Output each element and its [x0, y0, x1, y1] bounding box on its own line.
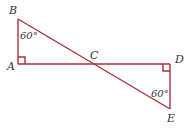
label-c: C	[90, 49, 99, 62]
right-angle-marker-d	[163, 64, 170, 71]
label-b: B	[8, 4, 17, 17]
geometry-figure: B A C D E 60° 60°	[0, 0, 190, 130]
right-angle-marker-a	[18, 57, 25, 64]
angle-b-label: 60°	[20, 30, 38, 41]
label-a: A	[6, 60, 15, 73]
label-e: E	[166, 112, 175, 125]
label-d: D	[174, 53, 184, 66]
angle-e-label: 60°	[151, 88, 169, 99]
